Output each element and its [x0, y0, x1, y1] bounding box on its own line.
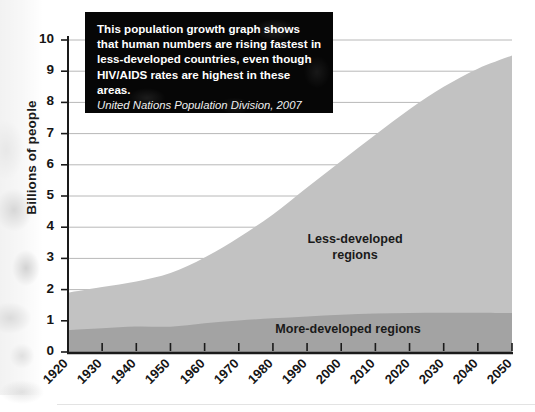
- y-tick-label: 0: [28, 343, 54, 358]
- y-tick-label: 8: [28, 93, 54, 108]
- chart-figure: Billions of people 012345678910 19201930…: [0, 0, 535, 412]
- callout-source-text: United Nations Population Division, 2007: [85, 97, 333, 113]
- y-tick-label: 4: [28, 218, 54, 233]
- y-tick-label: 10: [28, 31, 54, 46]
- y-tick-label: 3: [28, 249, 54, 264]
- y-tick-label: 5: [28, 187, 54, 202]
- y-tick-label: 7: [28, 125, 54, 140]
- y-tick-label: 2: [28, 281, 54, 296]
- callout-body-text: This population growth graph shows that …: [85, 12, 333, 97]
- less-developed-regions-label: Less-developed regions: [300, 232, 410, 263]
- footer-divider: [57, 404, 535, 405]
- more-developed-regions-label: More-developed regions: [268, 322, 428, 338]
- callout-box: This population growth graph shows that …: [85, 12, 333, 113]
- y-tick-label: 6: [28, 156, 54, 171]
- y-tick-label: 1: [28, 312, 54, 327]
- y-tick-label: 9: [28, 62, 54, 77]
